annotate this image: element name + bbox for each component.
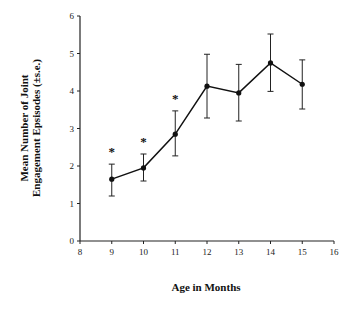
data-point-marker (300, 82, 305, 87)
data-point-marker (109, 177, 114, 182)
y-tick-label: 1 (70, 199, 75, 209)
data-point-marker (236, 90, 241, 95)
x-tick-label: 8 (78, 247, 83, 257)
y-tick-label: 0 (70, 236, 75, 246)
x-tick-label: 9 (110, 247, 115, 257)
axes: 89101112131415160123456 (70, 11, 340, 257)
y-tick-label: 3 (70, 124, 75, 134)
y-tick-label: 4 (70, 86, 75, 96)
x-tick-label: 11 (171, 247, 180, 257)
x-tick-label: 10 (139, 247, 149, 257)
data-point-marker (204, 84, 209, 89)
y-tick-label: 5 (70, 49, 75, 59)
axis-labels: Age in Months Mean Number of Joint Engag… (18, 59, 241, 293)
x-tick-label: 12 (203, 247, 212, 257)
x-axis-title: Age in Months (171, 281, 241, 293)
y-tick-label: 6 (70, 11, 75, 21)
y-axis-title-line-1: Mean Number of Joint (18, 74, 30, 181)
y-tick-label: 2 (70, 161, 75, 171)
data-point-marker (141, 165, 146, 170)
x-tick-label: 13 (234, 247, 244, 257)
data-point-marker (268, 60, 273, 65)
line-chart: 89101112131415160123456 *** Age in Month… (0, 0, 352, 309)
significance-asterisk: * (172, 91, 179, 106)
x-tick-label: 14 (266, 247, 276, 257)
y-axis-title-line-2: Engagement Epsisodes (±s.e.) (30, 59, 43, 197)
significance-asterisk: * (109, 144, 116, 159)
data-series: *** (109, 34, 306, 196)
significance-asterisk: * (140, 134, 147, 149)
data-point-marker (173, 132, 178, 137)
x-tick-label: 15 (298, 247, 308, 257)
x-tick-label: 16 (330, 247, 340, 257)
